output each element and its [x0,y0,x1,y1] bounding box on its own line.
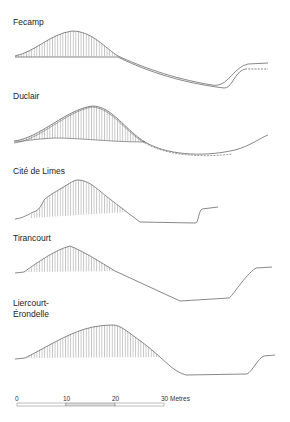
scale-tick-10: 10 [63,395,71,402]
scale-tick-30-metres: 30 Metres [161,395,191,402]
scale-tick-0: 0 [15,395,19,402]
scale-bar-labels: 0 10 20 30 Metres [0,0,290,422]
scale-tick-20: 20 [112,395,120,402]
